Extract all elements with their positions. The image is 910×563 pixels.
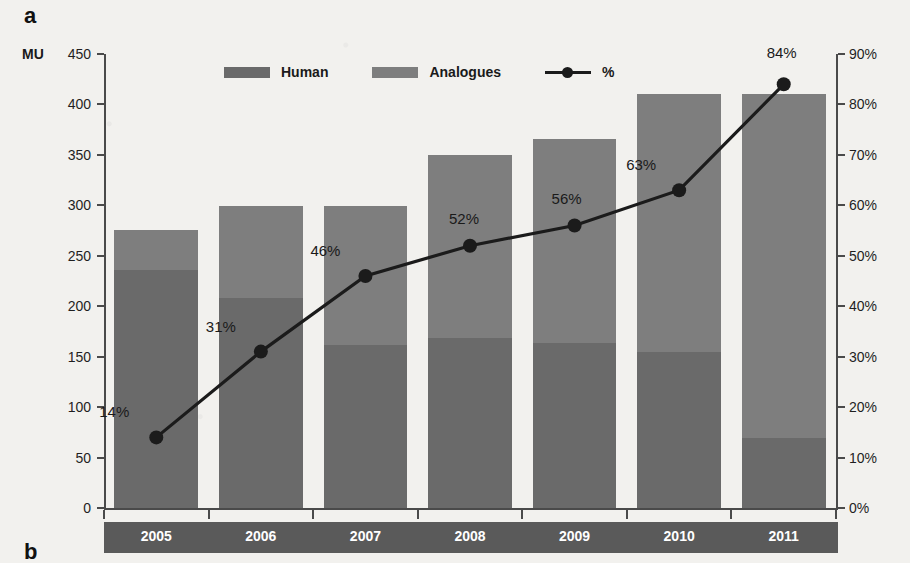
percent-data-point-marker [777,77,791,91]
percent-data-label: 84% [767,44,797,61]
percent-data-point-marker [568,219,582,233]
percent-data-point-marker [254,345,268,359]
percent-data-point-marker [463,239,477,253]
percent-data-label: 56% [552,190,582,207]
percent-line-series [0,0,910,563]
percent-data-label: 46% [310,242,340,259]
percent-data-label: 14% [99,403,129,420]
percent-data-point-marker [672,183,686,197]
percent-data-label: 52% [449,210,479,227]
percent-data-point-marker [149,430,163,444]
stacked-bar-line-chart: 45040035030025020015010050090%80%70%60%5… [0,0,910,563]
percent-data-label: 63% [626,156,656,173]
percent-data-label: 31% [206,318,236,335]
percent-line-path [156,84,783,437]
percent-data-point-marker [358,269,372,283]
